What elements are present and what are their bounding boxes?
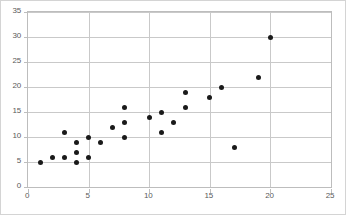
x-axis-tick-label: 0 <box>17 192 37 200</box>
x-axis-tick-label: 20 <box>259 192 279 200</box>
gridline-vertical <box>149 12 150 187</box>
data-point <box>86 135 91 140</box>
y-axis-tick-mark <box>24 137 28 138</box>
data-point <box>171 120 176 125</box>
y-axis-tick-label: 5 <box>0 157 21 165</box>
y-axis-tick-mark <box>24 37 28 38</box>
y-axis-tick-label: 10 <box>0 132 21 140</box>
y-axis-tick-label: 25 <box>0 57 21 65</box>
y-axis-tick-mark <box>24 187 28 188</box>
gridline-vertical <box>210 12 211 187</box>
gridline-horizontal <box>28 87 331 88</box>
data-point <box>159 110 164 115</box>
data-point <box>268 35 273 40</box>
y-axis-tick-mark <box>24 87 28 88</box>
data-point <box>122 120 127 125</box>
scatter-chart: 051015202530350510152025 <box>0 0 346 215</box>
data-point <box>74 140 79 145</box>
y-axis-tick-mark <box>24 112 28 113</box>
x-axis-tick-label: 5 <box>78 192 98 200</box>
data-point <box>232 145 237 150</box>
y-axis-tick-mark <box>24 162 28 163</box>
data-point <box>110 125 115 130</box>
data-point <box>74 150 79 155</box>
data-point <box>122 105 127 110</box>
y-axis-tick-label: 35 <box>0 7 21 15</box>
y-axis-tick-label: 30 <box>0 32 21 40</box>
data-point <box>86 155 91 160</box>
gridline-horizontal <box>28 62 331 63</box>
x-axis-tick-label: 10 <box>138 192 158 200</box>
gridline-vertical <box>89 12 90 187</box>
gridline-horizontal <box>28 112 331 113</box>
gridline-horizontal <box>28 137 331 138</box>
data-point <box>219 85 224 90</box>
gridline-horizontal <box>28 37 331 38</box>
data-point <box>147 115 152 120</box>
data-point <box>62 130 67 135</box>
plot-area <box>27 11 332 188</box>
y-axis-tick-mark <box>24 62 28 63</box>
data-point <box>50 155 55 160</box>
y-axis-tick-mark <box>24 12 28 13</box>
y-axis-tick-label: 0 <box>0 182 21 190</box>
data-point <box>74 160 79 165</box>
data-point <box>62 155 67 160</box>
data-point <box>183 105 188 110</box>
y-axis-tick-label: 20 <box>0 82 21 90</box>
data-point <box>38 160 43 165</box>
data-point <box>159 130 164 135</box>
data-point <box>183 90 188 95</box>
data-point <box>122 135 127 140</box>
data-point <box>98 140 103 145</box>
x-axis-tick-label: 15 <box>199 192 219 200</box>
data-point <box>207 95 212 100</box>
y-axis-tick-label: 15 <box>0 107 21 115</box>
data-point <box>256 75 261 80</box>
gridline-horizontal <box>28 12 331 13</box>
x-axis-tick-label: 25 <box>320 192 340 200</box>
